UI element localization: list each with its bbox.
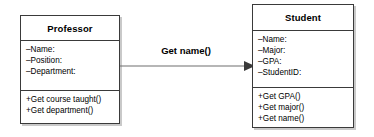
attribute-item: –Position: bbox=[26, 55, 114, 66]
method-item: +Get major() bbox=[258, 102, 348, 113]
attributes-compartment-professor: –Name: –Position: –Department: bbox=[21, 41, 119, 90]
attribute-item: –GPA: bbox=[258, 56, 348, 67]
class-title-professor: Professor bbox=[21, 16, 119, 40]
method-item: +Get course taught() bbox=[26, 94, 114, 105]
attributes-compartment-student: –Name: –Major: –GPA: –StudentID: bbox=[253, 31, 353, 87]
method-item: +Get department() bbox=[26, 105, 114, 116]
methods-compartment-professor: +Get course taught() +Get department() bbox=[21, 91, 119, 119]
attribute-item: –Name: bbox=[258, 34, 348, 45]
class-title-student: Student bbox=[253, 5, 353, 30]
attribute-item: –Major: bbox=[258, 45, 348, 56]
methods-compartment-student: +Get GPA() +Get major() +Get name() bbox=[253, 88, 353, 127]
association-label: Get name() bbox=[147, 45, 225, 56]
uml-class-professor[interactable]: Professor –Name: –Position: –Department:… bbox=[20, 15, 120, 124]
attribute-item: –Department: bbox=[26, 66, 114, 77]
uml-class-diagram-canvas: Professor –Name: –Position: –Department:… bbox=[0, 0, 374, 137]
method-item: +Get GPA() bbox=[258, 91, 348, 102]
attribute-item: –Name: bbox=[26, 44, 114, 55]
uml-class-student[interactable]: Student –Name: –Major: –GPA: –StudentID:… bbox=[252, 4, 354, 128]
attribute-item: –StudentID: bbox=[258, 67, 348, 78]
method-item: +Get name() bbox=[258, 113, 348, 124]
